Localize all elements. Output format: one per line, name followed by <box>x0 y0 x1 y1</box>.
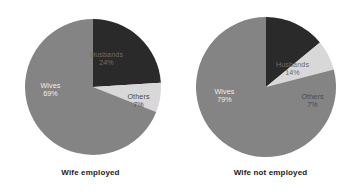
pie-svg-right <box>181 0 361 165</box>
chart-panel-wife-employed: Husbands 24% Wives 69% Others 7% Wife em… <box>1 0 181 192</box>
pie-slices-left <box>24 19 160 155</box>
caption-wife-employed: Wife employed <box>1 168 181 177</box>
pie-chart-figure: Husbands 24% Wives 69% Others 7% Wife em… <box>0 0 361 192</box>
pie-chart-wife-not-employed: Husbands 14% Wives 79% Others 7% <box>181 0 361 165</box>
pie-slices-right <box>195 17 335 157</box>
caption-wife-not-employed: Wife not employed <box>181 168 361 177</box>
slice-husbands-left[interactable] <box>93 19 161 87</box>
chart-panel-wife-not-employed: Husbands 14% Wives 79% Others 7% Wife no… <box>181 0 361 192</box>
pie-chart-wife-employed: Husbands 24% Wives 69% Others 7% <box>1 0 181 165</box>
pie-svg-left <box>1 0 181 165</box>
